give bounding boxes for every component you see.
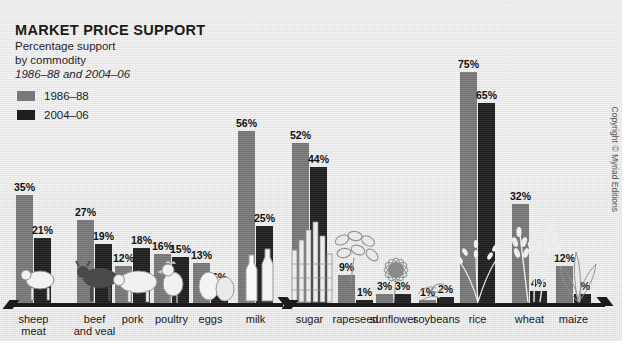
chart-plot-area: 35%21%27%19%12%18%16%15%13%6%56%25%52%44… (0, 0, 622, 341)
bar-milk-2004-06 (256, 226, 273, 303)
value-label-wheat-1986-88: 32% (499, 190, 543, 202)
bar-eggs-2004-06 (211, 285, 228, 303)
bar-pork-1986-88 (115, 266, 132, 303)
bar-sheep-meat-2004-06 (34, 238, 51, 303)
value-label-pork-1986-88: 12% (102, 252, 146, 264)
value-label-beef-and-veal-1986-88: 27% (64, 206, 108, 218)
copyright-notice: Copyright © Myriad Editions (610, 107, 620, 212)
bar-poultry-2004-06 (172, 257, 189, 303)
bar-sugar-1986-88 (292, 143, 309, 303)
bar-sunflower-1986-88 (376, 294, 393, 303)
value-label-wheat-2004-06: 4% (517, 277, 561, 289)
bar-wheat-2004-06 (530, 291, 547, 303)
value-label-sheep-meat-1986-88: 35% (3, 181, 47, 193)
value-label-rapeseed-1986-88: 9% (325, 261, 369, 273)
bar-sugar-2004-06 (310, 167, 327, 303)
bar-maize-2004-06 (574, 294, 591, 303)
bar-rice-1986-88 (460, 72, 477, 303)
bar-sheep-meat-1986-88 (16, 195, 33, 303)
bar-poultry-1986-88 (154, 254, 171, 303)
value-label-maize-1986-88: 12% (543, 252, 587, 264)
value-label-milk-1986-88: 56% (225, 117, 269, 129)
value-label-sugar-2004-06: 44% (297, 153, 341, 165)
value-label-milk-2004-06: 25% (243, 212, 287, 224)
value-label-eggs-1986-88: 13% (180, 249, 224, 261)
baseline-crops (289, 303, 605, 307)
value-label-sheep-meat-2004-06: 21% (21, 224, 65, 236)
baseline-livestock (10, 303, 283, 307)
value-label-rice-1986-88: 75% (447, 58, 491, 70)
value-label-maize-2004-06: 3% (561, 280, 605, 292)
chart-panel: MARKET PRICE SUPPORT Percentage support … (0, 0, 622, 341)
bar-rice-2004-06 (478, 103, 495, 303)
value-label-eggs-2004-06: 6% (198, 271, 242, 283)
axis-label-maize: maize (534, 313, 614, 325)
bar-eggs-1986-88 (193, 263, 210, 303)
value-label-sugar-1986-88: 52% (279, 129, 323, 141)
value-label-rice-2004-06: 65% (465, 89, 509, 101)
